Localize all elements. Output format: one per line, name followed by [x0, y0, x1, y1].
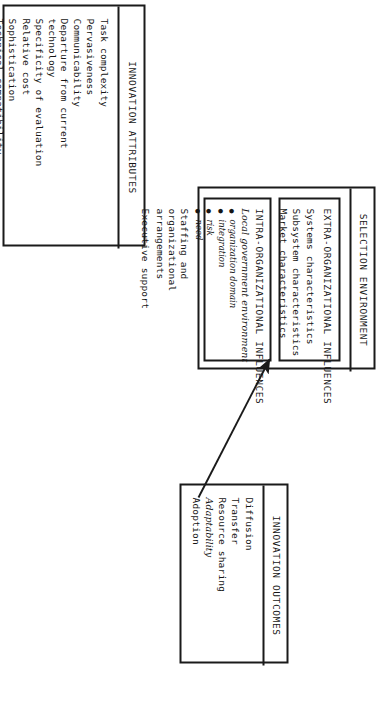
list-item: Diffusion [242, 497, 256, 592]
list-item: Staffing and organizational arrangements [153, 208, 189, 318]
figure-rotation-wrapper: INNOVATION ATTRIBUTES Task complexity Pe… [0, 0, 381, 706]
list-item: Systems characteristics [303, 208, 317, 356]
intra-organizational-influences-title: INTRA-ORGANIZATIONAL INFLUENCES [252, 208, 264, 404]
selection-environment-box: SELECTION ENVIRONMENT EXTRA-ORGANIZATION… [197, 186, 375, 369]
list-item: Communicability [70, 18, 84, 166]
list-item: Pervasiveness [83, 18, 97, 166]
list-item: Departure from current technology [46, 18, 70, 150]
extra-organizational-influences-title: EXTRA-ORGANIZATIONAL INFLUENCES [320, 208, 332, 404]
intra-organizational-influences-box: INTRA-ORGANIZATIONAL INFLUENCES Local go… [203, 197, 271, 361]
handwritten-bullet: risk [203, 208, 215, 362]
innovation-outcomes-list: Diffusion Transfer Resource sharing Adap… [189, 497, 256, 592]
list-item: Transfer [228, 497, 242, 592]
list-item: Market characteristics [276, 208, 290, 356]
innovation-outcomes-title: INNOVATION OUTCOMES [269, 515, 281, 635]
list-item-handwritten: Adaptability [202, 497, 215, 592]
innovation-attributes-box: INNOVATION ATTRIBUTES Task complexity Pe… [2, 4, 145, 246]
handwritten-bullet: organization domain [226, 208, 238, 362]
innovation-outcomes-title-bar: INNOVATION OUTCOMES [262, 485, 286, 665]
innovation-outcomes-box: INNOVATION OUTCOMES Diffusion Transfer R… [179, 483, 288, 663]
handwritten-bullet: need [192, 208, 204, 362]
list-item: Task complexity [97, 18, 111, 166]
list-item: Relative cost [19, 18, 33, 166]
intra-organizational-handwritten-note: Local government environment organizatio… [192, 208, 251, 362]
list-item: Subsystem characteristics [289, 208, 303, 356]
list-item: Technical compatibility [0, 18, 5, 166]
handwritten-heading: Local government environment [238, 208, 251, 362]
extra-organizational-list: Systems characteristics Subsystem charac… [276, 208, 317, 356]
list-item: Specificity of evaluation [32, 18, 46, 166]
list-item: Adoption [189, 497, 203, 592]
list-item: Resource sharing [215, 497, 229, 592]
list-item: Sophistication [5, 18, 19, 166]
list-item: Executive support [138, 208, 152, 318]
extra-organizational-influences-box: EXTRA-ORGANIZATIONAL INFLUENCES Systems … [278, 197, 340, 361]
intra-organizational-list: Staffing and organizational arrangements… [138, 208, 190, 318]
innovation-process-diagram: INNOVATION ATTRIBUTES Task complexity Pe… [0, 0, 381, 706]
handwritten-bullet: integration [215, 208, 227, 362]
selection-environment-title-bar: SELECTION ENVIRONMENT [349, 188, 373, 371]
selection-environment-title: SELECTION ENVIRONMENT [356, 213, 368, 346]
innovation-attributes-title: INNOVATION ATTRIBUTES [125, 61, 137, 194]
innovation-attributes-list: Task complexity Pervasiveness Communicab… [0, 18, 110, 166]
